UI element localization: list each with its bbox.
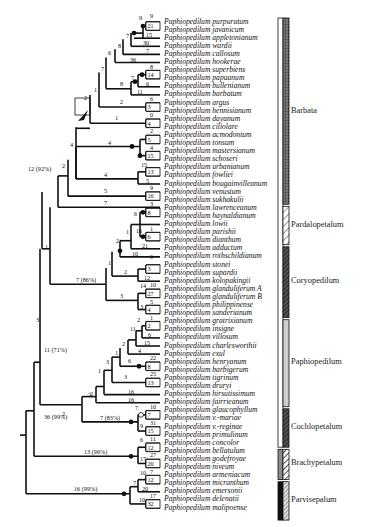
svg-text:11: 11 <box>137 88 143 95</box>
svg-text:0: 0 <box>150 111 153 118</box>
svg-text:25: 25 <box>150 370 156 377</box>
svg-text:8: 8 <box>148 209 151 216</box>
svg-text:9: 9 <box>150 253 153 260</box>
svg-text:30: 30 <box>143 39 149 46</box>
svg-text:4: 4 <box>138 347 141 354</box>
svg-text:1: 1 <box>98 367 101 374</box>
svg-text:2: 2 <box>116 237 119 244</box>
svg-text:3: 3 <box>124 373 127 380</box>
svg-text:14: 14 <box>140 282 146 289</box>
svg-text:2: 2 <box>124 268 127 275</box>
svg-text:6: 6 <box>128 357 131 364</box>
svg-text:7: 7 <box>131 74 134 81</box>
subgenus-label: Coryopedilum <box>291 276 339 285</box>
svg-text:8: 8 <box>150 63 153 70</box>
svg-text:16 (99%): 16 (99%) <box>74 485 97 493</box>
svg-text:13: 13 <box>148 379 154 386</box>
svg-text:3: 3 <box>36 316 39 323</box>
svg-text:16: 16 <box>136 227 142 234</box>
svg-text:27: 27 <box>148 290 154 297</box>
svg-text:15: 15 <box>146 31 152 38</box>
svg-text:20: 20 <box>148 460 154 467</box>
svg-text:16: 16 <box>128 388 134 395</box>
svg-text:15: 15 <box>148 152 154 159</box>
svg-text:7: 7 <box>150 468 153 475</box>
svg-text:2: 2 <box>88 391 91 398</box>
svg-text:6: 6 <box>140 436 143 443</box>
svg-text:7 (83%): 7 (83%) <box>100 414 120 422</box>
svg-text:10: 10 <box>132 250 138 257</box>
svg-text:4: 4 <box>150 144 153 151</box>
svg-text:6: 6 <box>146 80 149 87</box>
subgenus-label: Parvisepalum <box>291 495 337 504</box>
svg-text:3: 3 <box>148 265 151 272</box>
svg-text:1: 1 <box>150 225 153 232</box>
svg-text:5: 5 <box>148 136 151 143</box>
svg-text:3: 3 <box>140 303 143 310</box>
svg-text:12: 12 <box>148 476 154 483</box>
svg-text:20: 20 <box>142 485 148 492</box>
svg-text:32: 32 <box>148 500 154 507</box>
subgenus-label: Paphiopedilum <box>291 357 342 366</box>
svg-text:21: 21 <box>148 22 154 29</box>
svg-text:7: 7 <box>146 47 149 54</box>
subgenus-label: Barbata <box>291 106 317 115</box>
svg-text:4: 4 <box>70 141 73 148</box>
svg-text:31: 31 <box>150 419 156 426</box>
svg-text:6: 6 <box>134 210 137 217</box>
svg-text:16: 16 <box>148 192 154 199</box>
svg-text:10: 10 <box>139 496 145 503</box>
svg-text:1: 1 <box>45 243 48 250</box>
svg-text:17: 17 <box>140 455 146 462</box>
svg-text:3: 3 <box>106 358 109 365</box>
subgenus-label: Brachypetalum <box>291 458 342 467</box>
svg-text:9: 9 <box>150 12 153 19</box>
svg-text:15: 15 <box>144 339 150 346</box>
svg-text:11: 11 <box>150 435 156 442</box>
svg-text:5: 5 <box>104 187 107 194</box>
svg-text:17: 17 <box>150 492 156 499</box>
svg-text:2: 2 <box>150 127 153 134</box>
svg-text:15: 15 <box>148 427 154 434</box>
svg-text:6: 6 <box>150 95 153 102</box>
svg-text:1: 1 <box>94 86 97 93</box>
svg-text:6: 6 <box>148 233 151 240</box>
svg-text:2: 2 <box>122 340 125 347</box>
svg-text:9: 9 <box>139 14 142 21</box>
svg-text:1: 1 <box>150 314 153 321</box>
svg-text:3: 3 <box>150 200 153 207</box>
svg-text:12: 12 <box>148 444 154 451</box>
svg-text:3: 3 <box>148 103 151 110</box>
svg-text:4: 4 <box>148 306 151 313</box>
svg-text:12: 12 <box>144 274 150 281</box>
svg-text:2: 2 <box>148 322 151 329</box>
svg-text:7: 7 <box>104 199 107 206</box>
svg-text:9: 9 <box>150 184 153 191</box>
svg-text:12 (92%): 12 (92%) <box>28 165 51 173</box>
svg-text:15: 15 <box>141 161 147 168</box>
svg-text:4: 4 <box>104 171 107 178</box>
svg-text:21: 21 <box>142 242 148 249</box>
svg-text:8: 8 <box>148 363 151 370</box>
svg-text:13 (96%): 13 (96%) <box>84 448 107 456</box>
svg-text:9: 9 <box>140 422 143 429</box>
svg-text:2: 2 <box>120 98 123 105</box>
svg-text:7: 7 <box>135 404 138 411</box>
svg-text:8: 8 <box>118 42 121 49</box>
svg-text:22: 22 <box>150 354 156 361</box>
svg-text:36: 36 <box>130 56 136 63</box>
subgenus-label: Pardalopetalum <box>291 220 344 229</box>
svg-text:27: 27 <box>150 451 156 458</box>
svg-text:2: 2 <box>62 162 65 169</box>
svg-text:10: 10 <box>150 281 156 288</box>
svg-text:10: 10 <box>140 469 146 476</box>
svg-text:6: 6 <box>148 331 151 338</box>
svg-text:10: 10 <box>150 403 156 410</box>
svg-text:6: 6 <box>108 49 111 56</box>
svg-text:13: 13 <box>148 168 154 175</box>
svg-text:7: 7 <box>148 411 151 418</box>
svg-text:1: 1 <box>108 259 111 266</box>
svg-text:11 (71%): 11 (71%) <box>44 346 67 354</box>
subgenus-label: Cochlopetalum <box>291 422 342 431</box>
svg-text:3: 3 <box>120 292 123 299</box>
